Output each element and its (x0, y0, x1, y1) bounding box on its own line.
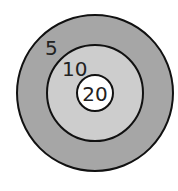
middle-ring-label: 10 (62, 57, 87, 81)
outer-ring-label: 5 (45, 36, 58, 60)
target-diagram: 5 10 20 (0, 0, 178, 191)
inner-ring-label: 20 (82, 82, 107, 106)
